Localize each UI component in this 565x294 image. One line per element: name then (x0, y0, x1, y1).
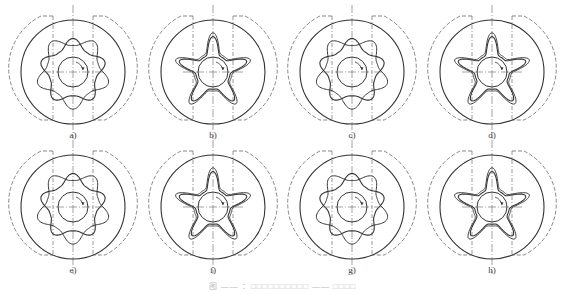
figure-panel-b (143, 5, 283, 140)
rotor-diagram (282, 5, 422, 140)
rotor-diagram (143, 5, 283, 140)
arrowhead-icon (500, 202, 503, 205)
rotation-arrow-icon (495, 62, 502, 70)
rotation-arrow-icon (76, 197, 83, 205)
rotor-diagram (422, 5, 562, 140)
figure-panel-d (422, 5, 562, 140)
panel-label-c: c) (282, 130, 422, 140)
rotor-diagram (422, 140, 562, 275)
rotor-diagram (282, 140, 422, 275)
panel-label-b: b) (143, 130, 283, 140)
arrowhead-icon (360, 67, 363, 70)
figure-panel-h (422, 140, 562, 275)
outer-rotor-profile (305, 21, 403, 118)
panel-label-a: a) (3, 130, 143, 140)
rotation-arrow-icon (216, 197, 223, 205)
panel-label-f: f) (143, 265, 283, 275)
outer-rotor-profile (26, 21, 124, 118)
rotation-arrow-icon (495, 197, 502, 205)
figure-panel-a (3, 5, 143, 140)
figure-panel-e (3, 140, 143, 275)
panel-label-h: h) (422, 265, 562, 275)
arrowhead-icon (221, 202, 224, 205)
outer-rotor-profile (26, 156, 124, 253)
rotor-diagram (143, 140, 283, 275)
panel-label-g: g) (282, 265, 422, 275)
figure-panel-f (143, 140, 283, 275)
figure-panel-c (282, 5, 422, 140)
rotor-diagram (3, 5, 143, 140)
figure-panel-g (282, 140, 422, 275)
arrowhead-icon (360, 202, 363, 205)
arrowhead-icon (81, 67, 84, 70)
rotor-diagram (3, 140, 143, 275)
panel-label-e: e) (3, 265, 143, 275)
rotation-arrow-icon (355, 197, 362, 205)
arrowhead-icon (221, 67, 224, 70)
rotation-arrow-icon (216, 62, 223, 70)
panel-label-d: d) (422, 130, 562, 140)
outer-rotor-profile (305, 156, 403, 253)
rotation-arrow-icon (76, 62, 83, 70)
figure-caption: 图 —— ：□□□□□□□□□□ —— □□□□ (0, 280, 565, 291)
arrowhead-icon (500, 67, 503, 70)
arrowhead-icon (81, 202, 84, 205)
rotation-arrow-icon (355, 62, 362, 70)
